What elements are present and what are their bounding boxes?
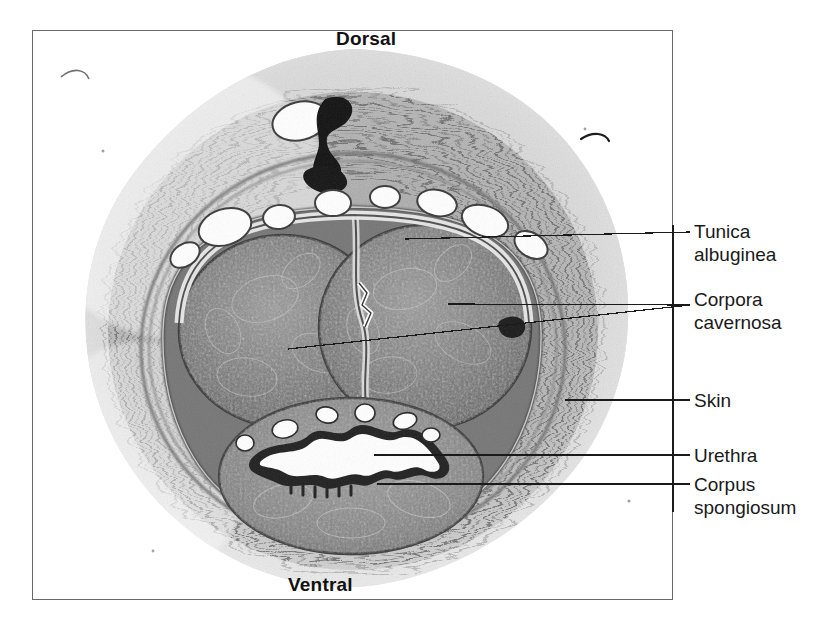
- label-corpora-cavernosa: Corpora cavernosa: [694, 288, 782, 334]
- label-corpus-spongiosum: Corpus spongiosum: [694, 473, 796, 519]
- label-tunica-albuginea: Tunica albuginea: [694, 220, 776, 266]
- micrograph-plate: [32, 30, 673, 600]
- orientation-label-dorsal: Dorsal: [336, 28, 396, 50]
- orientation-label-ventral: Ventral: [288, 574, 353, 596]
- label-urethra: Urethra: [694, 444, 757, 467]
- figure-penis-cross-section: Dorsal Ventral Tunica albuginea Corpora …: [0, 0, 829, 620]
- label-skin: Skin: [694, 389, 731, 412]
- micrograph-canvas: [33, 31, 672, 599]
- histology-image: [33, 31, 672, 599]
